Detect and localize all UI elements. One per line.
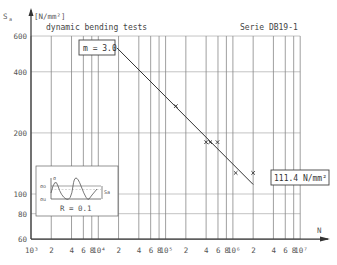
x-tick-label: 4: [204, 246, 209, 255]
x-tick-label: 4: [70, 246, 75, 255]
x-axis-arrow-icon: [320, 237, 330, 242]
sn-curve-chart: 10³246810⁴246810⁵246810⁶246810⁷608010020…: [0, 0, 337, 265]
y-tick-label: 80: [18, 210, 28, 219]
load-cycle-inset: σ σo σu Sa R = 0.1: [36, 166, 118, 216]
inset-sigma-label: σ: [53, 175, 56, 181]
inset-sa-label: Sa: [104, 189, 110, 195]
x-tick-label: 6: [149, 246, 154, 255]
x-tick-label: 10⁴: [92, 246, 106, 255]
inset-sigma-u-label: σu: [40, 196, 46, 202]
x-tick-label: 10⁷: [294, 246, 308, 255]
endurance-text: 111.4 N/mm²: [274, 174, 327, 183]
series-label: Serie DB19-1: [240, 23, 298, 32]
tick-labels: 10³246810⁴246810⁵246810⁶246810⁷608010020…: [14, 32, 308, 255]
x-tick-label: 6: [216, 246, 221, 255]
y-axis-subscript: a: [9, 16, 12, 22]
y-tick-label: 100: [14, 190, 28, 199]
x-tick-label: 4: [137, 246, 142, 255]
y-tick-label: 600: [14, 32, 28, 41]
x-tick-label: 2: [117, 246, 122, 255]
inset-sigma-o-label: σo: [40, 183, 46, 189]
x-tick-label: 10⁶: [227, 246, 241, 255]
slope-text: m = 3.0: [83, 44, 117, 53]
data-point-x-marker: [216, 140, 220, 144]
data-point-x-marker: [234, 171, 238, 175]
y-tick-label: 200: [14, 129, 28, 138]
x-tick-label: 10⁵: [160, 246, 174, 255]
x-tick-label: 6: [283, 246, 288, 255]
y-tick-label: 400: [14, 68, 28, 77]
x-axis-label: N: [317, 226, 322, 235]
y-axis-unit: [N/mm²]: [34, 12, 66, 21]
x-tick-label: 6: [81, 246, 86, 255]
x-tick-label: 2: [251, 246, 256, 255]
x-tick-label: 10³: [25, 246, 39, 255]
y-axis-arrow-icon: [29, 8, 34, 16]
y-tick-label: 60: [18, 235, 28, 244]
chart-title: dynamic bending tests: [46, 23, 147, 32]
slope-annotation: m = 3.0: [79, 40, 117, 55]
x-tick-label: 2: [49, 246, 54, 255]
x-tick-label: 4: [271, 246, 276, 255]
x-tick-label: 2: [184, 246, 189, 255]
y-axis-symbol: S: [3, 12, 8, 21]
inset-caption: R = 0.1: [60, 204, 92, 213]
endurance-annotation: 111.4 N/mm²: [271, 170, 329, 185]
